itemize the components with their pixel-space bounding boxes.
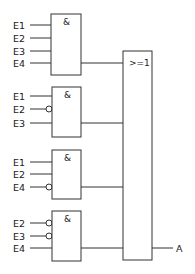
and-gate-symbol: &: [64, 214, 71, 224]
or-gate: [123, 51, 152, 260]
logic-diagram: E1E2E3E4&E1E2E3&E1E2E4&E2E3E4&>=1A: [0, 0, 195, 274]
input-label-e2: E2: [13, 169, 25, 180]
inversion-bubble-icon: [46, 233, 52, 239]
input-label-e2: E2: [13, 104, 25, 115]
input-label-e1: E1: [13, 157, 25, 168]
output-label: A: [176, 243, 183, 254]
input-label-e3: E3: [13, 118, 25, 129]
or-gate-symbol: >=1: [129, 58, 150, 68]
and-gate-symbol: &: [64, 90, 71, 100]
and-gate-symbol: &: [64, 153, 71, 163]
input-label-e2: E2: [13, 218, 25, 229]
input-label-e4: E4: [13, 243, 25, 254]
input-label-e4: E4: [13, 58, 25, 69]
inversion-bubble-icon: [46, 106, 52, 112]
input-label-e3: E3: [13, 231, 25, 242]
inversion-bubble-icon: [46, 184, 52, 190]
input-label-e1: E1: [13, 91, 25, 102]
and-gate-symbol: &: [63, 17, 70, 27]
input-label-e3: E3: [13, 46, 25, 57]
input-label-e1: E1: [13, 20, 25, 31]
inversion-bubble-icon: [46, 220, 52, 226]
input-label-e4: E4: [13, 182, 25, 193]
input-label-e2: E2: [13, 33, 25, 44]
